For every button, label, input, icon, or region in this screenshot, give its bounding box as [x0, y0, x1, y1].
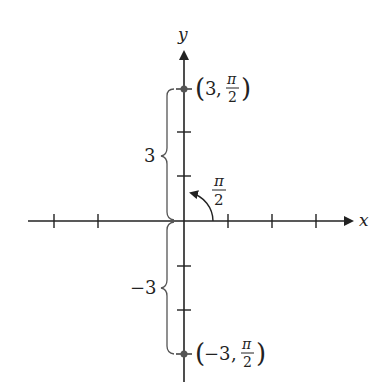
svg-text:(: ( — [195, 73, 205, 103]
angle-arc — [191, 193, 213, 221]
point-positive-label: ( 3 , π 2 ) — [195, 71, 251, 105]
brace-negative — [161, 222, 174, 354]
x-axis-label: x — [359, 210, 369, 230]
y-axis — [177, 52, 191, 382]
svg-text:,: , — [216, 78, 222, 99]
brace-positive — [161, 89, 174, 220]
svg-text:,: , — [231, 343, 237, 364]
svg-text:): ) — [241, 73, 251, 103]
svg-text:): ) — [256, 338, 266, 368]
polar-diagram: x y ( 3 , π 2 ) ( −3 , π 2 ) 3 −3 — [0, 0, 390, 387]
svg-text:2: 2 — [214, 191, 224, 209]
angle-label: π 2 — [212, 172, 226, 209]
svg-text:π: π — [241, 336, 252, 352]
brace-positive-label: 3 — [144, 145, 155, 166]
svg-text:2: 2 — [228, 89, 237, 105]
point-positive — [176, 86, 192, 93]
point-negative — [176, 351, 192, 358]
svg-text:2: 2 — [243, 354, 252, 370]
y-axis-label: y — [177, 24, 188, 44]
x-axis — [28, 214, 352, 228]
svg-text:−3: −3 — [204, 343, 231, 364]
svg-text:3: 3 — [205, 78, 216, 99]
svg-text:π: π — [226, 71, 237, 87]
svg-text:π: π — [213, 172, 225, 190]
brace-negative-label: −3 — [130, 277, 157, 298]
point-negative-label: ( −3 , π 2 ) — [195, 336, 266, 370]
